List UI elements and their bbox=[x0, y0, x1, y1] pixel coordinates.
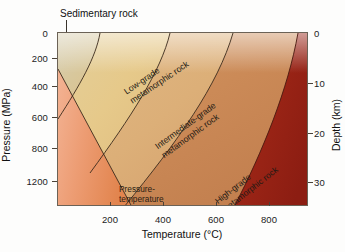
y-tick-label-800: 800 bbox=[14, 143, 48, 154]
x-tick-mark-200 bbox=[110, 202, 111, 206]
y2-tick-label-10: 10 bbox=[314, 78, 325, 89]
y-tick-label-600: 600 bbox=[14, 112, 48, 123]
x-tick-label-200: 200 bbox=[102, 214, 118, 225]
y2-tick-label-0: 0 bbox=[314, 28, 319, 39]
metamorphic-facies-diagram: Sedimentary rock bbox=[0, 0, 345, 252]
y-axis-title: Pressure (MPa) bbox=[0, 88, 12, 162]
y-tick-label-0: 0 bbox=[18, 28, 48, 39]
y-tick-mark-600 bbox=[52, 117, 57, 118]
y-tick-label-200: 200 bbox=[14, 53, 48, 64]
y-tick-mark-200 bbox=[52, 58, 57, 59]
x-tick-mark-800 bbox=[269, 202, 270, 206]
y2-tick-label-20: 20 bbox=[314, 128, 325, 139]
y2-tick-mark-20 bbox=[308, 133, 313, 134]
top-highlight-wash bbox=[58, 33, 308, 73]
y-tick-label-1200: 1200 bbox=[10, 176, 48, 187]
y2-tick-mark-30 bbox=[308, 182, 313, 183]
plot-svg bbox=[58, 33, 308, 206]
x-tick-mark-400 bbox=[163, 202, 164, 206]
y-tick-mark-400 bbox=[52, 86, 57, 87]
y2-tick-label-30: 30 bbox=[314, 177, 325, 188]
y-tick-mark-800 bbox=[52, 148, 57, 149]
plot-area: Low-grade metamorphic rock Intermediate-… bbox=[57, 32, 308, 206]
y2-axis-title: Depth (km) bbox=[330, 99, 342, 151]
y2-tick-mark-10 bbox=[308, 83, 313, 84]
y-tick-mark-1200 bbox=[52, 181, 57, 182]
sedimentary-rock-callout-label: Sedimentary rock bbox=[60, 8, 138, 19]
x-tick-label-600: 600 bbox=[208, 214, 224, 225]
label-not-found-in-crust: Pressure- temperature conditions not fou… bbox=[119, 185, 164, 206]
x-tick-label-400: 400 bbox=[155, 214, 171, 225]
y-tick-label-400: 400 bbox=[14, 81, 48, 92]
x-axis-title: Temperature (°C) bbox=[142, 228, 223, 240]
x-tick-mark-600 bbox=[216, 202, 217, 206]
x-tick-label-800: 800 bbox=[261, 214, 277, 225]
